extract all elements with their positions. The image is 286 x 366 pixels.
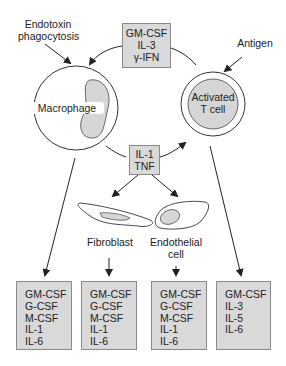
cytokine-item: IL-6 xyxy=(160,336,206,348)
arrow-antigen-to-tcell xyxy=(225,57,242,71)
output-box-macrophage: GM-CSF G-CSF M-CSF IL-1 IL-6 xyxy=(16,281,72,350)
cytokine-item: G-CSF xyxy=(25,301,71,313)
arrow-endotoxin-to-macrophage xyxy=(45,44,70,63)
output-box-fibroblast: GM-CSF G-CSF M-CSF IL-1 IL-6 xyxy=(81,281,137,350)
endotoxin-text: Endotoxin xyxy=(18,18,78,30)
arrow-middlebox-to-fibroblast xyxy=(113,175,138,196)
antigen-label: Antigen xyxy=(230,37,280,49)
cytokine-item: IL-6 xyxy=(225,324,270,336)
arrow-middlebox-to-tcell xyxy=(160,143,185,157)
fibroblast-label: Fibroblast xyxy=(80,236,140,248)
arrow-tcell-to-box4 xyxy=(210,146,241,275)
output-box-t-cell: GM-CSF IL-3 IL-5 IL-6 xyxy=(216,281,271,350)
cytokine-item: G-CSF xyxy=(90,301,136,313)
arrow-middlebox-to-endothelial xyxy=(152,175,177,196)
t-cell-label-line1: Activated xyxy=(188,91,238,103)
cytokine-item: IL-6 xyxy=(90,336,136,348)
output-box-endothelial: GM-CSF G-CSF M-CSF IL-1 IL-6 xyxy=(151,281,207,350)
fibroblast-shape xyxy=(78,203,153,227)
top-box-line: IL-3 xyxy=(123,40,170,52)
t-cell-label: Activated T cell xyxy=(188,91,238,115)
cytokine-item: IL-6 xyxy=(25,336,71,348)
t-cell-label-line2: T cell xyxy=(188,103,238,115)
middle-box-line: TNF xyxy=(130,161,159,173)
cytokine-item: IL-3 xyxy=(225,301,270,313)
endothelial-cell-shape xyxy=(155,201,208,229)
cytokine-item: G-CSF xyxy=(160,301,206,313)
arrow-macrophage-to-box1 xyxy=(45,158,75,275)
arrow-topbox-to-macrophage xyxy=(90,46,122,64)
phagocytosis-text: phagocytosis xyxy=(18,30,78,42)
endotoxin-phagocytosis-label: Endotoxin phagocytosis xyxy=(18,18,78,42)
line-macrophage-to-middlebox xyxy=(106,146,126,157)
top-cytokine-box: GM-CSF IL-3 γ-IFN xyxy=(122,23,171,68)
top-box-line: γ-IFN xyxy=(123,52,170,64)
line-topbox-to-tcell xyxy=(171,48,196,65)
macrophage-label: Macrophage xyxy=(30,102,104,114)
endothelial-label-line1: Endothelial xyxy=(146,236,206,248)
middle-cytokine-box: IL-1 TNF xyxy=(129,145,160,175)
endothelial-cell-label: Endothelial cell xyxy=(146,236,206,260)
endothelial-label-line2: cell xyxy=(146,248,206,260)
